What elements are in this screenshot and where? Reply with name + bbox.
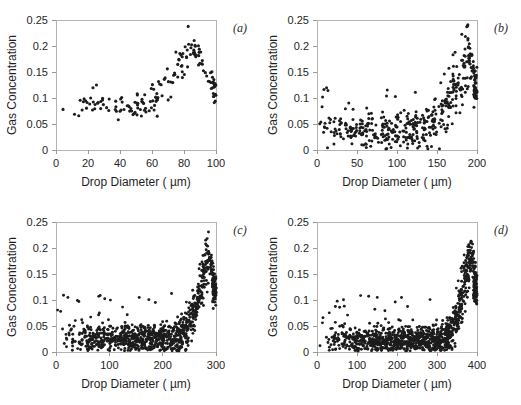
data-point xyxy=(136,344,139,347)
data-point xyxy=(76,347,79,350)
data-point xyxy=(435,348,438,351)
data-point xyxy=(421,126,424,129)
data-point xyxy=(208,258,211,261)
data-point xyxy=(391,131,394,134)
x-tick-label: 100 xyxy=(100,359,118,371)
data-point xyxy=(160,83,163,86)
data-point xyxy=(210,262,213,265)
data-point xyxy=(458,297,461,300)
x-tick-label: 0 xyxy=(314,157,320,169)
data-point-cluster xyxy=(213,301,216,304)
data-point xyxy=(185,301,188,304)
y-tick-label: 0.25 xyxy=(288,14,309,26)
data-point-outlier xyxy=(400,296,403,299)
data-point xyxy=(116,326,119,329)
data-point xyxy=(413,139,416,142)
data-point xyxy=(416,329,419,332)
data-point xyxy=(446,91,449,94)
data-point xyxy=(187,25,190,28)
data-point xyxy=(344,107,347,110)
data-point xyxy=(349,328,352,331)
data-point-outlier xyxy=(408,325,411,328)
data-point xyxy=(136,107,139,110)
data-point-cluster xyxy=(475,292,478,295)
data-point xyxy=(137,337,140,340)
data-point xyxy=(143,93,146,96)
data-point xyxy=(358,328,361,331)
data-point xyxy=(385,133,388,136)
data-point xyxy=(380,324,383,327)
data-point xyxy=(169,80,172,83)
data-point-outlier xyxy=(376,296,379,299)
data-point xyxy=(355,123,358,126)
data-point xyxy=(396,134,399,137)
data-point xyxy=(455,287,458,290)
data-point xyxy=(365,146,368,149)
data-point xyxy=(162,340,165,343)
data-point xyxy=(165,329,168,332)
x-tick-label: 0 xyxy=(53,157,59,169)
data-point xyxy=(471,261,474,264)
data-point xyxy=(446,333,449,336)
data-point xyxy=(116,339,119,342)
data-point xyxy=(388,119,391,122)
data-point xyxy=(208,80,211,83)
data-point xyxy=(354,134,357,137)
panel-label: (d) xyxy=(494,223,508,237)
data-point xyxy=(430,113,433,116)
data-point xyxy=(192,313,195,316)
data-point xyxy=(176,316,179,319)
data-point xyxy=(406,345,409,348)
data-point-outlier xyxy=(347,102,350,105)
data-point xyxy=(404,136,407,139)
data-point-outlier xyxy=(76,299,79,302)
data-point xyxy=(184,327,187,330)
data-point xyxy=(132,337,135,340)
data-point-outlier xyxy=(397,318,400,321)
data-point xyxy=(334,117,337,120)
y-tick-label: 0.05 xyxy=(27,118,48,130)
data-point xyxy=(193,39,196,42)
data-point-outlier xyxy=(406,115,409,118)
panel-label: (c) xyxy=(233,223,246,237)
data-point xyxy=(447,102,450,105)
data-point xyxy=(117,346,120,349)
data-point xyxy=(401,326,404,329)
data-point xyxy=(339,132,342,135)
data-point xyxy=(162,348,165,351)
data-point xyxy=(143,342,146,345)
data-point xyxy=(91,86,94,89)
data-point xyxy=(188,301,191,304)
data-point xyxy=(326,127,329,130)
data-point xyxy=(415,130,418,133)
data-point xyxy=(114,105,117,108)
data-points xyxy=(56,231,217,353)
data-point xyxy=(448,316,451,319)
data-point-outlier xyxy=(321,321,324,324)
data-point xyxy=(376,347,379,350)
data-point xyxy=(189,46,192,49)
data-point xyxy=(127,104,130,107)
data-point xyxy=(466,296,469,299)
data-point xyxy=(460,289,463,292)
data-point xyxy=(388,348,391,351)
data-point xyxy=(456,302,459,305)
data-point-outlier xyxy=(154,301,157,304)
data-point xyxy=(427,326,430,329)
data-point xyxy=(187,314,190,317)
data-point xyxy=(472,64,475,67)
data-point-outlier xyxy=(383,309,386,312)
chart-panel-a: 00.050.10.150.20.25020406080100Drop Diam… xyxy=(0,0,260,202)
data-point xyxy=(174,51,177,54)
data-point xyxy=(114,100,117,103)
data-point-outlier xyxy=(89,316,92,319)
data-point xyxy=(391,331,394,334)
data-point xyxy=(396,113,399,116)
data-point xyxy=(410,342,413,345)
data-point xyxy=(158,349,161,352)
data-point xyxy=(440,108,443,111)
data-point xyxy=(362,126,365,129)
data-point-outlier xyxy=(107,318,110,321)
data-point xyxy=(404,127,407,130)
data-point xyxy=(452,65,455,68)
